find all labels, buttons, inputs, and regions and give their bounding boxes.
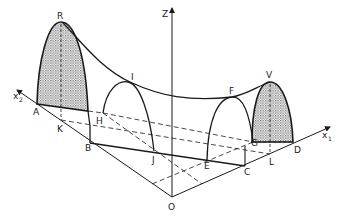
line-a-b-edge bbox=[88, 111, 90, 126]
label-h: H bbox=[96, 116, 103, 126]
label-o: O bbox=[168, 202, 175, 212]
dash-a-h bbox=[88, 111, 103, 113]
left-shaded-arch bbox=[37, 22, 88, 111]
label-a: A bbox=[33, 107, 40, 117]
label-g: G bbox=[251, 138, 258, 148]
x2-axis bbox=[17, 90, 172, 197]
arch-h-i-j bbox=[103, 82, 154, 151]
label-k: K bbox=[57, 124, 64, 134]
label-r: R bbox=[57, 11, 63, 21]
label-l: L bbox=[269, 157, 274, 167]
label-f: F bbox=[229, 86, 234, 96]
label-c: C bbox=[244, 167, 250, 177]
dash-g-o-diag bbox=[152, 142, 253, 184]
label-e: E bbox=[204, 161, 210, 171]
label-j: J bbox=[151, 155, 155, 165]
ridge-curve bbox=[63, 23, 270, 99]
dash-h-g bbox=[103, 113, 253, 142]
line-j-e-ext bbox=[154, 151, 245, 164]
dash-h-o-diag bbox=[103, 113, 202, 184]
arch-e-f-g bbox=[207, 97, 253, 160]
label-x2-sub: 2 bbox=[19, 96, 23, 103]
right-shaded-arch bbox=[252, 82, 293, 142]
label-v: V bbox=[266, 70, 273, 80]
label-i: I bbox=[131, 72, 134, 82]
label-z: Z bbox=[162, 9, 168, 19]
label-b: B bbox=[85, 143, 91, 153]
label-d: D bbox=[294, 145, 301, 155]
dash-k-l bbox=[61, 120, 270, 154]
label-x1-sub: 1 bbox=[328, 135, 332, 142]
diagram-canvas: Z O x 2 x 1 R A K B H I J E F G C L D V bbox=[0, 0, 341, 222]
